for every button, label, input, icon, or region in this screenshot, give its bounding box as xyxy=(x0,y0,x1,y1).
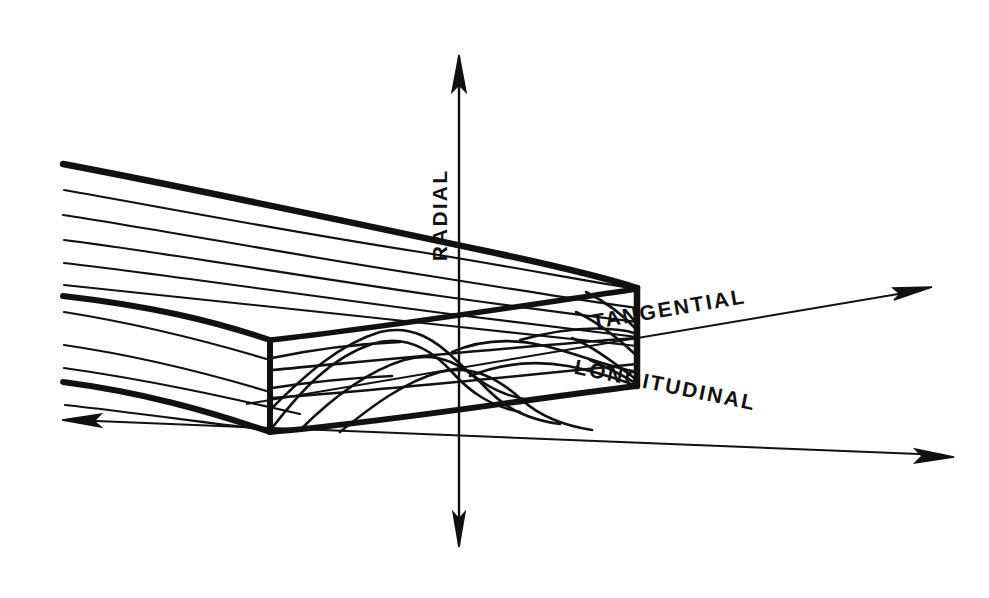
wood-axes-diagram: RADIAL TANGENTIAL LONGITUDINAL xyxy=(0,0,989,598)
canvas-background xyxy=(0,0,989,598)
figure-root: RADIAL TANGENTIAL LONGITUDINAL xyxy=(0,0,989,598)
axis-label-radial: RADIAL xyxy=(428,169,451,262)
